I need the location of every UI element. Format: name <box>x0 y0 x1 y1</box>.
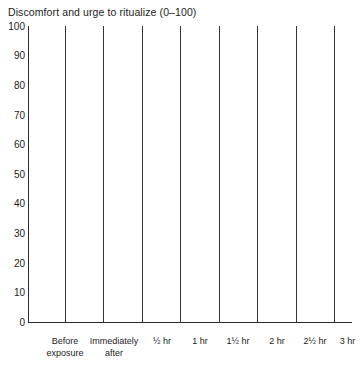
y-tick-label: 90 <box>1 51 25 61</box>
y-tick-label: 0 <box>1 318 25 328</box>
grid-line <box>257 26 258 322</box>
y-tick-label: 70 <box>1 111 25 121</box>
x-tick-label-line1: 3 hr <box>340 336 356 346</box>
grid-line <box>103 26 104 322</box>
y-axis-line <box>28 26 29 323</box>
y-tick-label: 20 <box>1 259 25 269</box>
y-tick-label: 30 <box>1 229 25 239</box>
y-tick-label: 50 <box>1 170 25 180</box>
chart-title: Discomfort and urge to ritualize (0–100) <box>8 6 196 19</box>
x-tick-label: 3 hr <box>334 336 361 348</box>
grid-line <box>180 26 181 322</box>
x-tick-label-line2: after <box>84 348 144 360</box>
y-tick-label: 80 <box>1 81 25 91</box>
x-tick-label: 2½ hr <box>296 336 334 348</box>
grid-line <box>334 26 335 322</box>
x-tick-label-line1: 1½ hr <box>226 336 249 346</box>
x-tick-label-line1: 1 hr <box>192 336 208 346</box>
x-tick-label-line1: ½ hr <box>153 336 171 346</box>
x-axis-line <box>28 322 352 323</box>
y-tick-label: 100 <box>1 22 25 32</box>
grid-line <box>219 26 220 322</box>
x-tick-label-line1: Immediately <box>90 336 139 346</box>
x-tick-label: 1 hr <box>181 336 219 348</box>
grid-line <box>65 26 66 322</box>
x-tick-label: 2 hr <box>258 336 296 348</box>
grid-line <box>296 26 297 322</box>
x-tick-label: 1½ hr <box>219 336 257 348</box>
y-tick-label: 10 <box>1 288 25 298</box>
y-axis-tick-labels: 100 90 80 70 60 50 40 30 20 10 0 <box>0 0 25 365</box>
y-tick-label: 60 <box>1 140 25 150</box>
discomfort-rating-chart: Discomfort and urge to ritualize (0–100)… <box>0 0 361 365</box>
x-tick-label-line1: 2½ hr <box>303 336 326 346</box>
grid-line <box>142 26 143 322</box>
x-tick-label: ½ hr <box>143 336 181 348</box>
x-tick-label-line1: Before <box>52 336 79 346</box>
x-tick-label: Immediately after <box>84 336 144 359</box>
x-tick-label-line1: 2 hr <box>269 336 285 346</box>
y-tick-label: 40 <box>1 199 25 209</box>
